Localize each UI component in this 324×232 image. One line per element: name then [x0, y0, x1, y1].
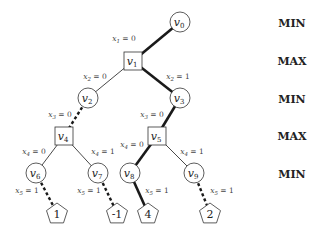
edge-label: x4 = 1	[180, 147, 204, 157]
node-v6: v6	[26, 163, 46, 183]
svg-text:2: 2	[207, 208, 214, 221]
node-v4: v4	[55, 127, 73, 145]
node-v2: v2	[78, 88, 98, 108]
edge-label: x3 = 0	[140, 110, 164, 120]
edge-label: x4 = 1	[91, 147, 115, 157]
level-label-max: MAX	[270, 130, 314, 143]
node-v9: v9	[184, 163, 204, 183]
level-label-min: MIN	[270, 168, 314, 181]
edge-label: x5 = 1	[77, 186, 101, 196]
edge-label: x4 = 0	[22, 147, 46, 157]
edge-label: x5 = 1	[145, 186, 169, 196]
node-v8: v8	[120, 163, 140, 183]
svg-text:-1: -1	[112, 208, 123, 221]
edge-label: x2 = 1	[166, 72, 190, 82]
leaf-nodes: 1-142	[47, 203, 221, 223]
level-label-min: MIN	[270, 93, 314, 106]
node-v0: v0	[170, 12, 190, 32]
svg-text:1: 1	[54, 208, 61, 221]
leaf-payoff: 4	[138, 203, 159, 223]
edge-label: x4 = 0	[120, 140, 144, 150]
svg-text:4: 4	[145, 208, 152, 221]
leaf-payoff: 2	[200, 203, 221, 223]
level-label-min: MIN	[270, 17, 314, 30]
edge-label: x3 = 0	[48, 110, 72, 120]
node-v7: v7	[88, 163, 108, 183]
game-tree-diagram: x1 = 0x2 = 0x2 = 1x3 = 0x3 = 0x4 = 0x4 =…	[0, 0, 324, 232]
edge-label: x5 = 1	[15, 186, 39, 196]
node-v5: v5	[148, 127, 166, 145]
node-v1: v1	[124, 52, 142, 70]
edge-label: x1 = 0	[112, 34, 136, 44]
edge-label: x2 = 0	[83, 72, 107, 82]
leaf-payoff: 1	[47, 203, 68, 223]
edge-label: x5 = 1	[210, 186, 234, 196]
level-label-max: MAX	[270, 55, 314, 68]
leaf-payoff: -1	[107, 203, 128, 223]
node-v3: v3	[170, 88, 190, 108]
